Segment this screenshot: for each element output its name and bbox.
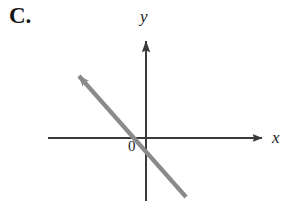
plotted-ray <box>79 76 186 197</box>
y-axis-label: y <box>140 8 148 25</box>
graph-figure: C. y x 0 <box>0 0 288 201</box>
coordinate-plane-svg <box>0 0 288 201</box>
origin-label: 0 <box>128 139 136 154</box>
x-axis-label: x <box>272 129 280 146</box>
